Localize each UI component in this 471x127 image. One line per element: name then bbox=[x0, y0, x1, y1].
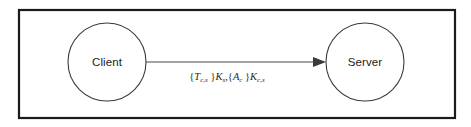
client-node-label: Client bbox=[92, 56, 123, 68]
label-close-brace-2: } bbox=[242, 71, 250, 82]
figure-container: Client Server {Tc,s }Ks,{Ac }Kc,s bbox=[0, 0, 471, 127]
diagram-canvas: Client Server {Tc,s }Ks,{Ac }Kc,s bbox=[0, 0, 471, 127]
label-close-brace-1: } bbox=[208, 71, 216, 82]
label-session-key-subscript: c,s bbox=[257, 76, 265, 84]
server-node-label: Server bbox=[348, 56, 383, 68]
